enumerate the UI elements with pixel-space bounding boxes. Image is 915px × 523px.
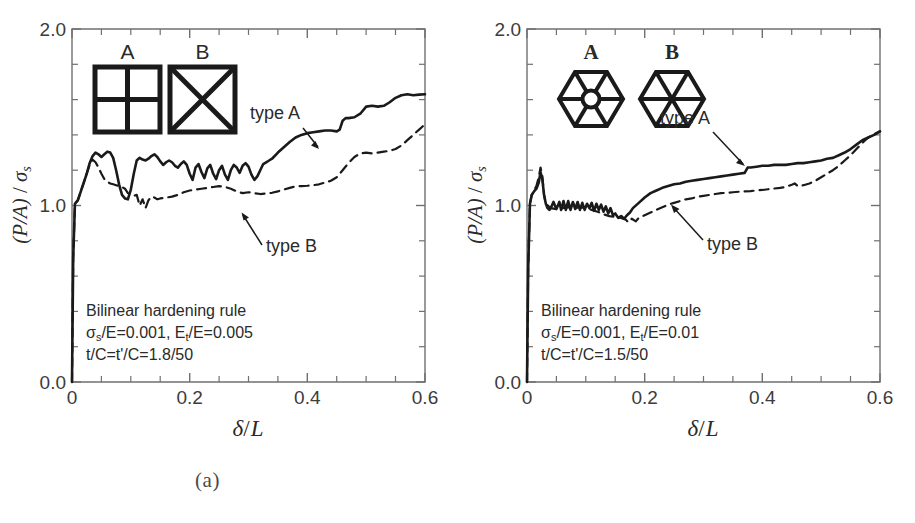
annotation-label-type-a: type A <box>250 103 300 123</box>
y-tick-label-2: 2.0 <box>495 19 521 40</box>
y-tick-label-2: 2.0 <box>40 19 66 40</box>
cross-section-icon-type-a <box>95 67 160 132</box>
cross-section-icon-type-b <box>170 67 235 132</box>
x-tick-label-0: 0 <box>522 387 533 408</box>
annotation-label-type-b: type B <box>266 236 317 256</box>
annotation-type-a: type A <box>250 103 319 149</box>
notes-line-2: σs/E=0.001, Et/E=0.01 <box>541 324 699 343</box>
notes-line-1: Bilinear hardening rule <box>86 302 246 319</box>
annotation-label-type-a: type A <box>660 108 710 128</box>
notes-block: Bilinear hardening rule σs/E=0.001, Et/E… <box>86 302 253 363</box>
y-tick-label-0: 0.0 <box>495 372 521 393</box>
cross-section-label-b: B <box>665 40 679 64</box>
notes-block: Bilinear hardening rule σs/E=0.001, Et/E… <box>541 302 701 363</box>
annotation-type-b: type B <box>671 205 758 255</box>
cross-section-label-b: B <box>195 40 209 63</box>
cross-section-label-a: A <box>120 40 134 63</box>
series-line-type-b <box>72 124 425 382</box>
notes-line-3: t/C=t'/C=1.5/50 <box>541 346 648 363</box>
x-tick-label-3: 0.6 <box>412 387 438 408</box>
figure-container: 2.0 1.0 0.0 0 0.2 0.4 0.6 δ/L (P/A) / σs <box>0 0 915 523</box>
annotation-type-a: type A <box>660 108 745 166</box>
caption-b: (b) <box>910 468 915 493</box>
notes-line-3: t/C=t'/C=1.8/50 <box>86 346 193 363</box>
notes-line-1: Bilinear hardening rule <box>541 302 701 319</box>
x-tick-label-3: 0.6 <box>867 387 893 408</box>
chart-a-svg: 2.0 1.0 0.0 0 0.2 0.4 0.6 δ/L (P/A) / σs <box>0 0 455 470</box>
x-axis-label: δ/L <box>688 416 719 441</box>
cross-section-label-a: A <box>583 40 599 64</box>
y-axis-label: (P/A) / σs <box>8 166 34 244</box>
series-line-type-b <box>527 131 880 382</box>
y-tick-label-0: 0.0 <box>40 372 66 393</box>
panel-a: 2.0 1.0 0.0 0 0.2 0.4 0.6 δ/L (P/A) / σs <box>0 0 455 470</box>
y-tick-label-1: 1.0 <box>495 195 521 216</box>
x-tick-label-1: 0.2 <box>176 387 202 408</box>
series-line-type-a <box>527 131 880 382</box>
y-tick-label-1: 1.0 <box>40 195 66 216</box>
x-tick-label-1: 0.2 <box>631 387 657 408</box>
notes-line-2: σs/E=0.001, Et/E=0.005 <box>86 324 253 343</box>
chart-b-svg: 2.0 1.0 0.0 0 0.2 0.4 0.6 δ/L (P/A) / σs <box>455 0 910 470</box>
y-axis-label: (P/A) / σs <box>463 166 489 244</box>
x-tick-label-2: 0.4 <box>294 387 321 408</box>
annotation-label-type-b: type B <box>707 234 758 254</box>
panel-b: 2.0 1.0 0.0 0 0.2 0.4 0.6 δ/L (P/A) / σs <box>455 0 910 470</box>
x-axis-label: δ/L <box>233 416 264 441</box>
annotation-type-b: type B <box>242 213 318 257</box>
cross-section-icon-type-a <box>559 72 623 126</box>
x-tick-label-2: 0.4 <box>749 387 776 408</box>
caption-a: (a) <box>0 468 435 493</box>
x-tick-label-0: 0 <box>67 387 78 408</box>
